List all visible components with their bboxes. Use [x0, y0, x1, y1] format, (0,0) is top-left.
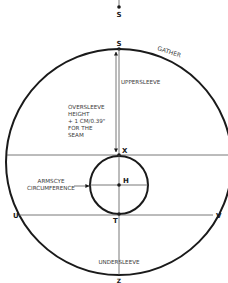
point-z-label: Z — [117, 277, 122, 283]
point-h-dot — [117, 183, 121, 187]
point-x-label: X — [122, 147, 128, 155]
point-t-label: T — [113, 217, 118, 225]
armscye-label-line2: CIRCUMFERENCE — [27, 185, 75, 191]
svg-text:SEAM: SEAM — [68, 132, 84, 138]
point-v-label: V — [216, 212, 222, 220]
undersleeve-label: UNDERSLEEVE — [98, 259, 140, 265]
point-s-top-label: S — [116, 11, 121, 19]
top-arc-group: S — [30, 0, 208, 19]
oversleeve-height-label: OVERSLEEVE HEIGHT + 1 CM/0.39" FOR THE S… — [68, 104, 106, 138]
svg-text:+ 1 CM/0.39": + 1 CM/0.39" — [68, 118, 106, 124]
point-h-label: H — [123, 177, 129, 185]
svg-text:HEIGHT: HEIGHT — [68, 111, 90, 117]
svg-text:OVERSLEEVE: OVERSLEEVE — [68, 104, 105, 110]
point-s-label: S — [116, 40, 121, 48]
point-s-top-dot — [117, 5, 121, 9]
sleeve-circle — [6, 49, 228, 275]
armscye-label-line1: ARMSCYE — [38, 178, 65, 184]
point-t-dot — [117, 212, 121, 216]
point-u-label: U — [13, 212, 19, 220]
sleeve-diagram: S S GATHER UPPERSLEEVE OVERSLEEVE HEIGHT… — [0, 0, 228, 283]
uppersleeve-label: UPPERSLEEVE — [121, 79, 161, 85]
svg-text:FOR THE: FOR THE — [68, 125, 93, 131]
